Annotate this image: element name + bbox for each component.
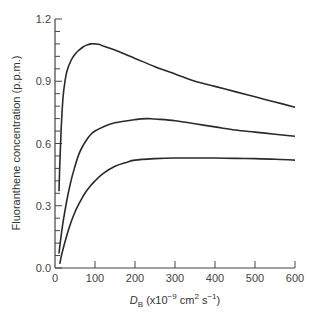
axes [55, 19, 295, 268]
series-line [59, 119, 295, 254]
y-tick-label: 0.3 [36, 200, 51, 212]
x-tick-label: 500 [246, 272, 264, 284]
y-tick-label: 0.9 [36, 75, 51, 87]
y-tick-label: 0.0 [36, 262, 51, 274]
x-axis-ticks: 0100200300400500600 [52, 261, 304, 284]
x-axis-label: DB (x10−9 cm2 s−1) [130, 292, 220, 309]
y-axis-label: Fluoranthene concentration (p.p.m.) [10, 56, 22, 231]
y-tick-label: 0.6 [36, 138, 51, 150]
y-axis-ticks: 0.00.30.60.91.2 [36, 13, 62, 274]
line-chart: 0.00.30.60.91.2 0100200300400500600 Fluo… [0, 0, 311, 318]
series-line [59, 44, 295, 191]
series-line [60, 158, 295, 264]
x-tick-label: 0 [52, 272, 58, 284]
data-series [59, 44, 295, 264]
y-tick-label: 1.2 [36, 13, 51, 25]
x-tick-label: 600 [286, 272, 304, 284]
x-tick-label: 400 [206, 272, 224, 284]
x-tick-label: 100 [86, 272, 104, 284]
x-tick-label: 200 [126, 272, 144, 284]
x-tick-label: 300 [166, 272, 184, 284]
